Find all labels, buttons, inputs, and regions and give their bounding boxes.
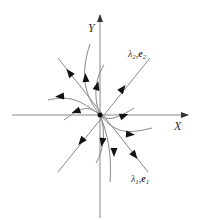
eigen-label-e1: λ1,e1	[130, 173, 149, 186]
arrow-e2-lower	[76, 136, 87, 147]
trajectory-upper-left-2	[64, 109, 100, 120]
arrow-e2-upper	[117, 83, 128, 94]
y-axis-label: Y	[88, 21, 96, 35]
arrow-lower-1	[111, 148, 118, 157]
phase-portrait: Y X λ2,e2 λ1,e1	[0, 0, 200, 220]
x-axis-label: X	[173, 119, 182, 133]
trajectory-lower-right-1	[100, 115, 152, 132]
eigen-label-e2: λ2,e2	[127, 48, 147, 61]
arrow-upper-1	[82, 73, 90, 83]
origin-point	[98, 113, 103, 118]
arrow-upper-left-1	[55, 93, 65, 101]
